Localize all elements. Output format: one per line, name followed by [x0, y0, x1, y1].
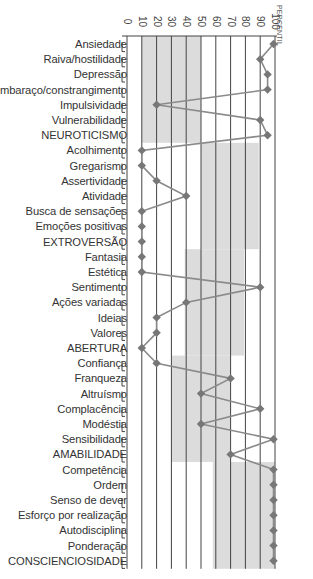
row-label: Sentimento [71, 281, 127, 293]
x-tick-label: 80 [240, 12, 251, 32]
row-label: Ordem [93, 479, 127, 491]
row-label: Atividade [82, 190, 127, 202]
x-axis-title: PERCENTIL [276, 5, 283, 46]
row-label: Estética [88, 266, 127, 278]
data-point-diamond [152, 313, 160, 321]
data-point-diamond [138, 253, 146, 261]
row-label: NEUROTICISMO [41, 129, 127, 141]
row-label: Depressão [74, 68, 127, 80]
x-tick-label: 10 [136, 12, 147, 32]
row-label: Complacência [57, 403, 127, 415]
row-label: Emoções positivas [35, 220, 127, 232]
row-label: Modéstia [82, 418, 127, 430]
row-label: Gregarismo [70, 160, 127, 172]
row-label: Sensibilidade [62, 433, 127, 445]
percentile-profile-chart: AnsiedadeRaiva/hostilidadeDepressãoEmbar… [0, 0, 313, 579]
data-point-diamond [138, 222, 146, 230]
x-tick-label: 70 [225, 12, 236, 32]
data-point-diamond [269, 435, 277, 443]
row-label: Raiva/hostilidade [43, 53, 127, 65]
row-label: Ideias [98, 312, 127, 324]
data-point-diamond [182, 192, 190, 200]
row-label: Senso de dever [50, 494, 127, 506]
row-label: Altruísmo [81, 388, 127, 400]
reference-band [185, 249, 244, 355]
x-tick-label: 90 [255, 12, 266, 32]
row-label: Fantasia [85, 251, 127, 263]
x-tick-label: 50 [196, 12, 207, 32]
data-point-diamond [138, 207, 146, 215]
row-label: Esforço por realização [18, 509, 127, 521]
row-label: Vulnerabilidade [52, 114, 127, 126]
data-point-diamond [263, 131, 271, 139]
data-point-diamond [263, 70, 271, 78]
row-label: Ansiedade [75, 38, 127, 50]
data-point-diamond [263, 85, 271, 93]
x-tick-label: 20 [151, 12, 162, 32]
row-label: Valores [91, 327, 127, 339]
data-point-diamond [138, 146, 146, 154]
row-label: Confiança [78, 357, 127, 369]
row-label: Embaraço/constrangimento [0, 84, 127, 96]
row-label: AMABILIDADE [53, 448, 127, 460]
row-label: ABERTURA [67, 342, 127, 354]
data-point-diamond [138, 237, 146, 245]
x-tick-label: 40 [181, 12, 192, 32]
row-label: Competência [62, 464, 127, 476]
row-label: Ações variadas [52, 296, 127, 308]
reference-band [201, 143, 259, 249]
reference-band [213, 462, 275, 569]
data-point-diamond [256, 405, 264, 413]
row-label: EXTROVERSÃO [43, 236, 127, 248]
row-label: Acolhimento [67, 144, 127, 156]
row-label: Ponderação [68, 540, 127, 552]
row-label: Autodisciplina [59, 524, 127, 536]
row-label: Assertividade [61, 175, 127, 187]
data-point-diamond [256, 116, 264, 124]
row-label: CONSCIENCIOSIDADE [8, 555, 127, 567]
data-point-diamond [138, 268, 146, 276]
row-label: Busca de sensações [26, 205, 127, 217]
x-tick-label: 60 [210, 12, 221, 32]
data-point-diamond [256, 283, 264, 291]
row-label: Impulsividade [60, 99, 127, 111]
x-tick-label: 0 [122, 12, 133, 32]
x-tick-label: 30 [166, 12, 177, 32]
row-label: Franqueza [74, 372, 127, 384]
